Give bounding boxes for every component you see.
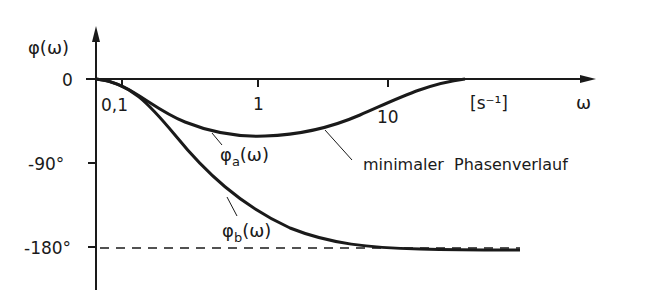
series-label-phi-a: φa(ω): [220, 144, 269, 169]
x-tick-label-10: 10: [377, 107, 399, 127]
y-tick-label-180: -180°: [24, 238, 71, 258]
leader-annotation: [325, 130, 352, 160]
y-axis-label: φ(ω): [28, 37, 69, 58]
phase-plot: φ(ω) 0 -90° -180° 0,1 1 10 [s⁻¹] ω φa(ω)…: [0, 0, 657, 303]
x-tick-label-01: 0,1: [101, 95, 128, 115]
y-tick-label-90: -90°: [28, 154, 64, 174]
x-axis-label: ω: [576, 92, 591, 113]
y-axis-arrow-icon: [92, 26, 100, 42]
y-tick-label-0: 0: [62, 70, 73, 90]
x-tick-label-1: 1: [253, 94, 264, 114]
x-axis-arrow-icon: [580, 75, 596, 83]
x-unit-label: [s⁻¹]: [470, 93, 508, 113]
annotation-minimal-phase: minimaler Phasenverlauf: [363, 155, 568, 174]
series-label-phi-b: φb(ω): [222, 220, 271, 245]
leader-phi-b: [227, 197, 237, 216]
